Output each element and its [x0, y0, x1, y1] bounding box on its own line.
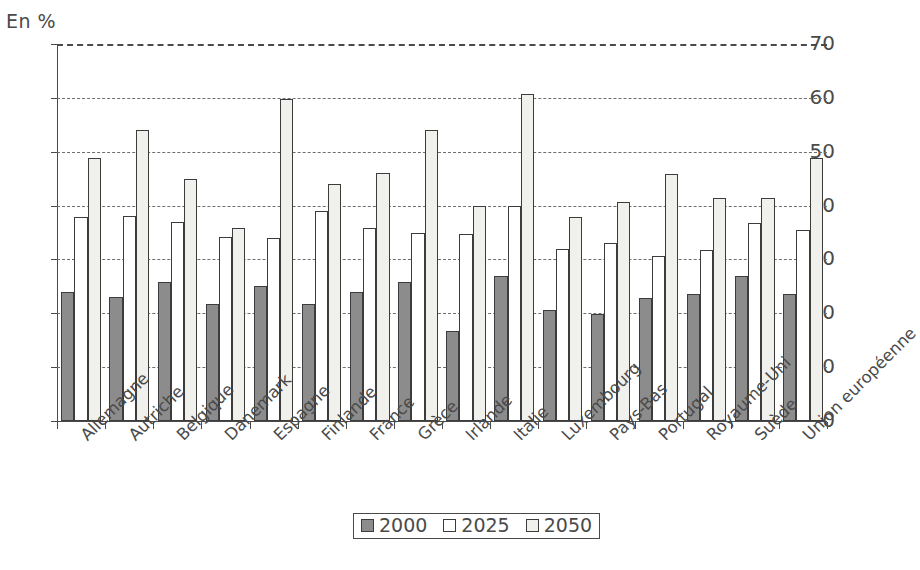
- bar: [508, 206, 521, 421]
- bar: [411, 233, 424, 422]
- legend-swatch-2000: [361, 519, 374, 532]
- bar: [425, 130, 438, 421]
- bar: [810, 158, 823, 421]
- bar: [521, 94, 534, 421]
- bar: [796, 230, 809, 421]
- bar: [459, 234, 472, 421]
- bar: [74, 217, 87, 421]
- gridline: [57, 98, 827, 99]
- chart-legend: 2000 2025 2050: [353, 513, 600, 539]
- bar: [61, 292, 74, 421]
- bar: [713, 198, 726, 422]
- bar: [473, 206, 486, 421]
- bar: [665, 174, 678, 421]
- legend-label: 2025: [461, 516, 509, 535]
- x-tick-mark: [57, 422, 58, 429]
- plot-area: [57, 44, 827, 421]
- gridline: [57, 44, 827, 46]
- y-axis-unit-label: En %: [6, 10, 56, 32]
- legend-swatch-2050: [526, 519, 539, 532]
- bar: [328, 184, 341, 421]
- legend-swatch-2025: [443, 519, 456, 532]
- legend-label: 2000: [379, 516, 427, 535]
- bar: [376, 173, 389, 421]
- bar: [543, 310, 556, 421]
- legend-item: 2025: [443, 516, 509, 535]
- bar: [556, 249, 569, 421]
- legend-item: 2050: [526, 516, 592, 535]
- gridline: [57, 206, 827, 207]
- bar: [88, 158, 101, 421]
- bar: [184, 179, 197, 421]
- bar: [569, 217, 582, 421]
- gridline: [57, 152, 827, 153]
- legend-item: 2000: [361, 516, 427, 535]
- legend-label: 2050: [544, 516, 592, 535]
